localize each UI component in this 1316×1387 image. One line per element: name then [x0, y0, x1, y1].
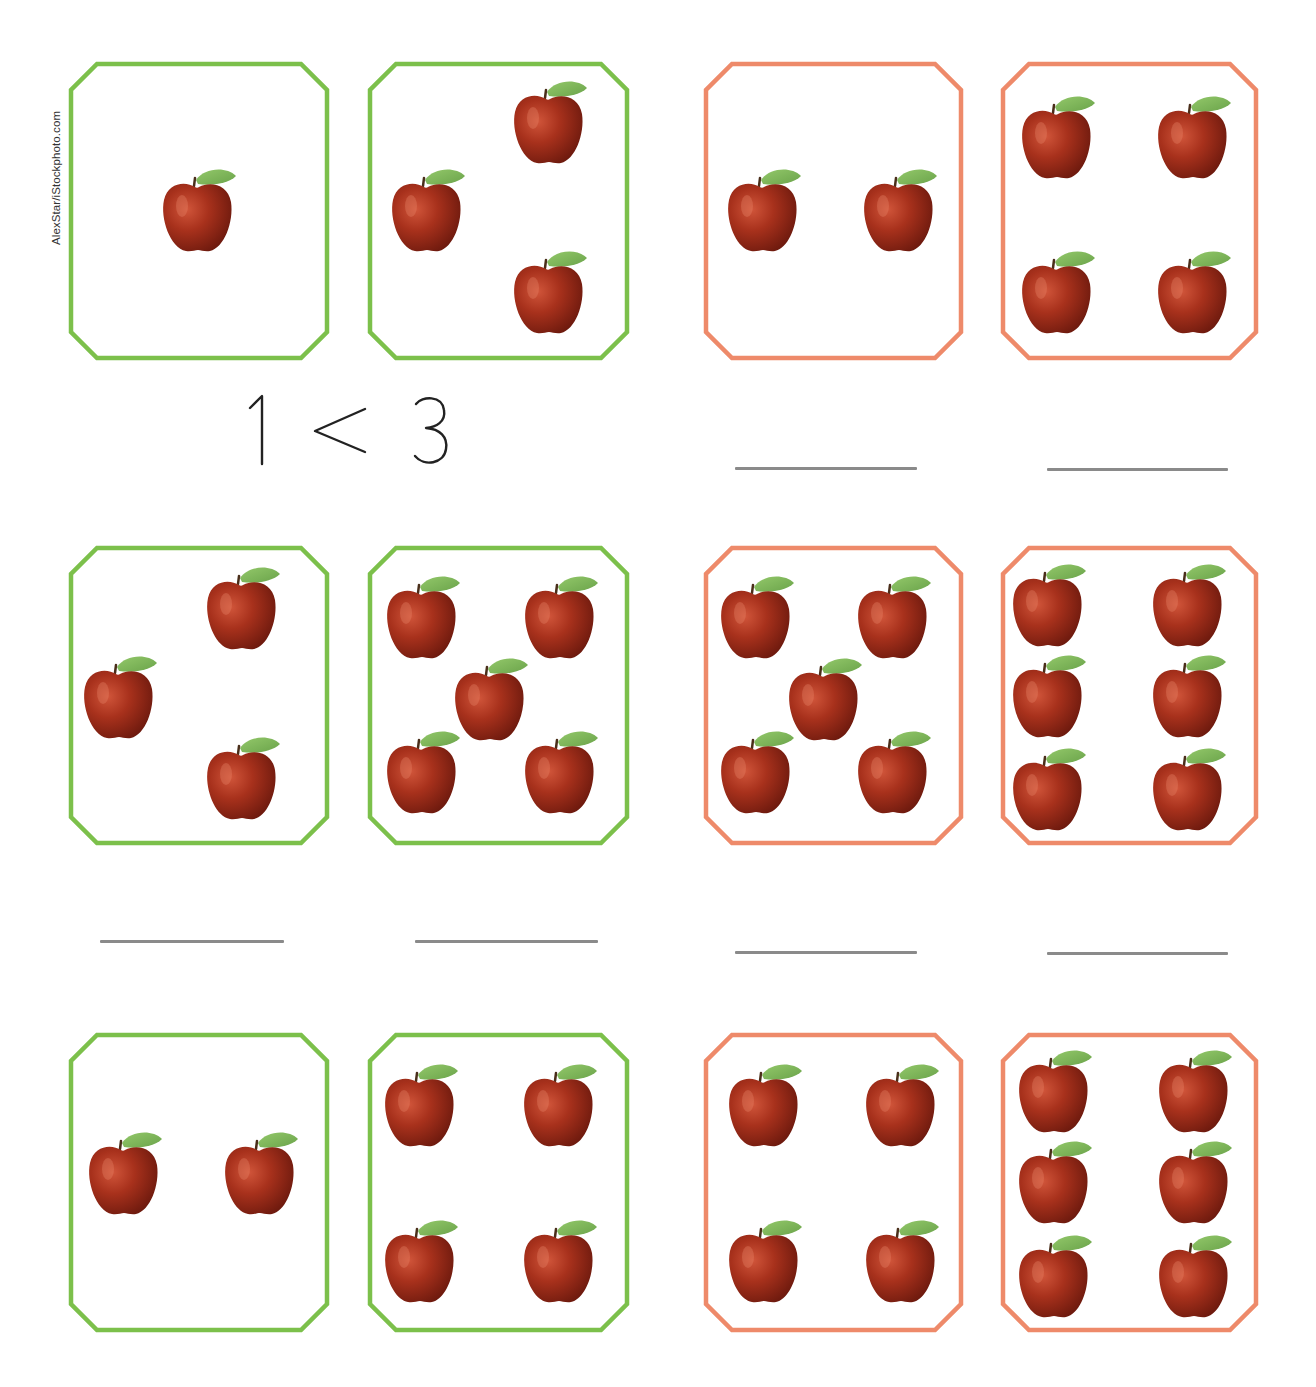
apple-icon	[724, 1213, 804, 1305]
apple-icon	[202, 730, 282, 822]
answer-line-r2-right-a[interactable]	[735, 951, 917, 954]
apple-icon	[1154, 1043, 1234, 1135]
apple-icon	[79, 649, 159, 741]
apple-icon	[1008, 741, 1088, 833]
apple-icon	[519, 1057, 599, 1149]
apple-icon	[1148, 741, 1228, 833]
apple-icon	[853, 569, 933, 661]
apple-icon	[1154, 1134, 1234, 1226]
apple-icon	[382, 569, 462, 661]
apple-icon	[716, 724, 796, 816]
apple-icon	[1154, 1228, 1234, 1320]
apple-icon	[1148, 648, 1228, 740]
apple-icon	[509, 74, 589, 166]
apple-icon	[861, 1213, 941, 1305]
apple-icon	[202, 560, 282, 652]
answer-line-r2-right-b[interactable]	[1047, 952, 1228, 955]
apple-icon	[382, 724, 462, 816]
apple-icon	[380, 1213, 460, 1305]
apple-icon	[1008, 648, 1088, 740]
apple-icon	[387, 162, 467, 254]
apple-icon	[1014, 1043, 1094, 1135]
apple-icon	[450, 651, 530, 743]
apple-icon	[784, 651, 864, 743]
example-comparison-drawing	[244, 394, 454, 474]
answer-line-r1-right-a[interactable]	[735, 467, 917, 470]
apple-icon	[716, 569, 796, 661]
apple-icon	[509, 244, 589, 336]
apple-icon	[723, 162, 803, 254]
apple-icon	[861, 1057, 941, 1149]
answer-line-r2-left-a[interactable]	[100, 940, 284, 943]
apple-icon	[1153, 89, 1233, 181]
example-comparison: 1 < 3	[244, 394, 454, 474]
apple-icon	[520, 569, 600, 661]
answer-line-r1-right-b[interactable]	[1047, 468, 1228, 471]
apple-icon	[84, 1125, 164, 1217]
apple-icon	[1014, 1228, 1094, 1320]
apple-icon	[519, 1213, 599, 1305]
apple-icon	[1017, 244, 1097, 336]
apple-icon	[220, 1125, 300, 1217]
apple-icon	[158, 162, 238, 254]
apple-icon	[853, 724, 933, 816]
apple-icon	[724, 1057, 804, 1149]
apple-icon	[1014, 1134, 1094, 1226]
apple-icon	[1148, 557, 1228, 649]
apple-icon	[380, 1057, 460, 1149]
apple-icon	[1017, 89, 1097, 181]
apple-icon	[1153, 244, 1233, 336]
apple-icon	[1008, 557, 1088, 649]
apple-icon	[859, 162, 939, 254]
answer-line-r2-left-b[interactable]	[415, 940, 598, 943]
photo-credit: AlexStar/iStockphoto.com	[50, 111, 62, 245]
apple-icon	[520, 724, 600, 816]
